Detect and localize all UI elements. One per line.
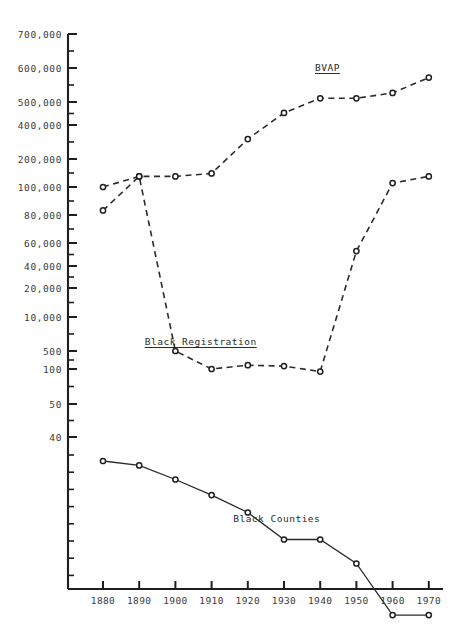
x-tick-label: 1890 bbox=[127, 595, 151, 606]
data-point-marker bbox=[100, 458, 105, 463]
data-point-marker bbox=[281, 110, 286, 115]
y-tick-label: 50 bbox=[49, 399, 62, 410]
data-point-marker bbox=[281, 364, 286, 369]
data-point-marker bbox=[100, 208, 105, 213]
series-line bbox=[103, 461, 429, 615]
x-axis-ticks bbox=[103, 581, 429, 589]
data-point-marker bbox=[354, 96, 359, 101]
data-point-marker bbox=[426, 613, 431, 618]
y-tick-label: 600,000 bbox=[18, 63, 62, 74]
x-tick-label: 1940 bbox=[308, 595, 332, 606]
series-bvap bbox=[100, 75, 431, 190]
data-point-marker bbox=[209, 171, 214, 176]
data-point-marker bbox=[426, 75, 431, 80]
data-point-marker bbox=[137, 463, 142, 468]
y-tick-label: 80,000 bbox=[24, 210, 62, 221]
y-tick-label: 20,000 bbox=[24, 283, 62, 294]
data-point-marker bbox=[390, 613, 395, 618]
x-tick-label: 1930 bbox=[272, 595, 296, 606]
y-tick-label: 40,000 bbox=[24, 261, 62, 272]
data-point-marker bbox=[100, 184, 105, 189]
y-tick-label: 100 bbox=[43, 364, 62, 375]
axis-lines bbox=[68, 34, 443, 589]
y-tick-label: 10,000 bbox=[24, 312, 62, 323]
data-point-marker bbox=[318, 369, 323, 374]
series-line bbox=[103, 78, 429, 187]
y-tick-label: 500 bbox=[43, 346, 62, 357]
x-tick-label: 1880 bbox=[91, 595, 115, 606]
chart-figure: 700,000600,000500,000400,000200,000100,0… bbox=[0, 0, 455, 634]
data-point-marker bbox=[137, 174, 142, 179]
x-tick-label: 1910 bbox=[199, 595, 223, 606]
x-tick-label: 1920 bbox=[236, 595, 260, 606]
series-label-black-counties: Black Counties bbox=[233, 513, 320, 524]
y-tick-label: 100,000 bbox=[18, 182, 62, 193]
data-point-marker bbox=[318, 537, 323, 542]
data-point-marker bbox=[390, 181, 395, 186]
series-label-bvap: BVAP bbox=[315, 62, 340, 73]
data-point-marker bbox=[173, 174, 178, 179]
y-tick-label: 400,000 bbox=[18, 120, 62, 131]
x-tick-label: 1970 bbox=[417, 595, 441, 606]
data-point-marker bbox=[245, 137, 250, 142]
data-point-marker bbox=[426, 174, 431, 179]
y-tick-label: 60,000 bbox=[24, 238, 62, 249]
data-point-marker bbox=[354, 561, 359, 566]
y-tick-label: 200,000 bbox=[18, 154, 62, 165]
data-point-marker bbox=[318, 96, 323, 101]
x-tick-label: 1900 bbox=[163, 595, 187, 606]
x-tick-label: 1950 bbox=[344, 595, 368, 606]
chart-plot-area bbox=[0, 0, 455, 634]
y-tick-label: 700,000 bbox=[18, 29, 62, 40]
data-point-marker bbox=[173, 477, 178, 482]
data-point-marker bbox=[281, 537, 286, 542]
y-tick-label: 500,000 bbox=[18, 97, 62, 108]
series-label-black-registration: Black Registration bbox=[145, 336, 257, 347]
x-tick-label: 1960 bbox=[380, 595, 404, 606]
y-axis-ticks bbox=[68, 34, 77, 575]
data-point-marker bbox=[354, 249, 359, 254]
data-point-marker bbox=[209, 493, 214, 498]
series-black-counties bbox=[100, 458, 431, 617]
y-tick-label: 40 bbox=[49, 432, 62, 443]
data-point-marker bbox=[173, 348, 178, 353]
data-point-marker bbox=[245, 363, 250, 368]
data-point-marker bbox=[390, 90, 395, 95]
data-point-marker bbox=[209, 366, 214, 371]
